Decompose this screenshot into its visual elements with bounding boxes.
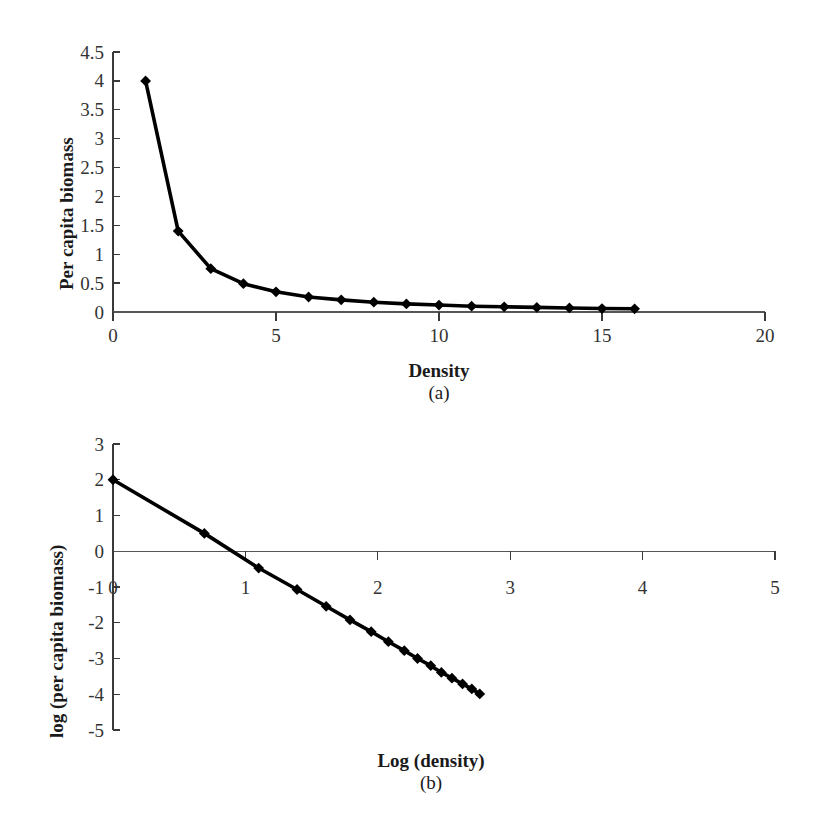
data-point-marker xyxy=(401,299,412,310)
y-tick-label: -2 xyxy=(88,612,104,633)
x-tick-label: 5 xyxy=(271,325,281,346)
y-tick-label: 1 xyxy=(95,505,105,526)
y-tick-label: 4.5 xyxy=(80,42,104,63)
data-point-marker xyxy=(238,278,249,289)
data-point-marker xyxy=(303,292,314,303)
y-tick-label: -3 xyxy=(88,648,104,669)
y-tick-label: 0 xyxy=(95,302,105,323)
data-point-marker xyxy=(336,294,347,305)
y-tick-label: -4 xyxy=(88,684,104,705)
y-tick-label: -1 xyxy=(88,577,104,598)
data-point-marker xyxy=(629,303,640,314)
chart-panel-b: log (per capita biomass) -5-4-3-2-101230… xyxy=(0,418,824,838)
data-point-marker xyxy=(466,301,477,312)
panel-a-x-axis-title-block: Density (a) xyxy=(289,360,589,405)
y-tick-label: -5 xyxy=(88,720,104,741)
x-tick-label: 0 xyxy=(108,325,118,346)
y-tick-label: 0.5 xyxy=(80,273,104,294)
panel-a-x-axis-title: Density xyxy=(289,360,589,382)
data-series-line xyxy=(146,81,635,309)
x-tick-label: 3 xyxy=(505,577,515,598)
panel-b-x-axis-title-block: Log (density) (b) xyxy=(281,750,581,795)
panel-a-y-axis-title: Per capita biomass xyxy=(56,137,78,290)
x-tick-label: 0 xyxy=(108,577,118,598)
panel-a-caption: (a) xyxy=(289,382,589,405)
x-tick-label: 5 xyxy=(770,577,780,598)
x-tick-label: 10 xyxy=(430,325,449,346)
y-tick-label: 1 xyxy=(95,244,105,265)
panel-a-plot-area: 00.511.522.533.544.505101520 xyxy=(0,0,824,360)
data-point-marker xyxy=(271,286,282,297)
y-tick-label: 1.5 xyxy=(80,215,104,236)
data-point-marker xyxy=(499,301,510,312)
x-tick-label: 4 xyxy=(638,577,648,598)
x-tick-label: 15 xyxy=(593,325,612,346)
y-tick-label: 2.5 xyxy=(80,157,104,178)
chart-panel-a: Per capita biomass 00.511.522.533.544.50… xyxy=(0,0,824,420)
x-tick-label: 2 xyxy=(373,577,383,598)
y-tick-label: 0 xyxy=(95,541,105,562)
data-point-marker xyxy=(368,297,379,308)
data-point-marker xyxy=(531,302,542,313)
data-point-marker xyxy=(434,300,445,311)
y-tick-label: 2 xyxy=(95,469,105,490)
x-tick-label: 20 xyxy=(756,325,775,346)
x-tick-label: 1 xyxy=(241,577,251,598)
data-point-marker xyxy=(140,75,151,86)
y-tick-label: 3.5 xyxy=(80,99,104,120)
panel-b-x-axis-title: Log (density) xyxy=(281,750,581,772)
y-tick-label: 3 xyxy=(95,434,105,455)
panel-b-y-axis-title: log (per capita biomass) xyxy=(46,545,68,738)
y-tick-label: 2 xyxy=(95,186,105,207)
panel-b-plot-area: -5-4-3-2-10123012345 xyxy=(0,418,824,748)
y-tick-label: 3 xyxy=(95,128,105,149)
panel-b-caption: (b) xyxy=(281,772,581,795)
y-tick-label: 4 xyxy=(95,70,105,91)
